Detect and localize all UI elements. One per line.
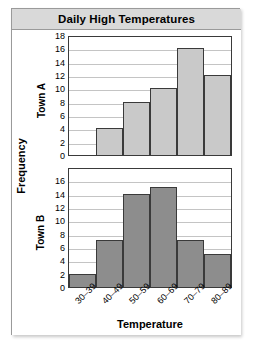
x-tick-60-69: 60–69 — [150, 288, 177, 318]
bar-town-a-50-59 — [123, 102, 150, 155]
x-axis-label: Temperature — [68, 318, 232, 330]
bar-town-b-60-69 — [150, 187, 177, 287]
y-tick-town-b-8: 8 — [60, 230, 65, 239]
panel-label-town-b: Town B — [34, 166, 48, 299]
y-tick-town-b-12: 12 — [55, 204, 65, 213]
bar-slot — [204, 37, 231, 155]
bar-slot — [69, 37, 96, 155]
bar-town-b-40-49 — [96, 240, 123, 287]
bar-slot — [69, 169, 96, 287]
plot-area-town-a — [68, 36, 232, 156]
chart-body: Frequency Town A 181614121086420 Town B … — [12, 30, 241, 335]
bar-town-b-70-79 — [177, 240, 204, 287]
x-tick-80-89: 80–89 — [205, 288, 232, 318]
y-tick-town-a-0: 0 — [60, 152, 65, 161]
bars-town-a — [69, 37, 231, 155]
bar-slot — [204, 169, 231, 287]
panel-label-town-a: Town A — [34, 34, 48, 167]
y-tick-town-b-10: 10 — [55, 217, 65, 226]
x-tick-30-39: 30–39 — [68, 288, 95, 318]
bar-town-b-50-59 — [123, 194, 150, 287]
panel-label-town-b-text: Town B — [36, 215, 47, 250]
page-title: Daily High Temperatures — [58, 13, 195, 25]
bar-town-a-60-69 — [150, 88, 177, 155]
y-axis-ticks-town-b: 1614121086420 — [48, 166, 66, 299]
y-tick-town-b-4: 4 — [60, 257, 65, 266]
plot-area-town-b — [68, 168, 232, 288]
y-tick-town-b-2: 2 — [60, 270, 65, 279]
y-tick-town-a-10: 10 — [55, 85, 65, 94]
y-tick-town-a-4: 4 — [60, 125, 65, 134]
bar-slot — [150, 37, 177, 155]
bar-slot — [96, 169, 123, 287]
y-axis-ticks-town-a: 181614121086420 — [48, 34, 66, 167]
bar-slot — [123, 169, 150, 287]
x-tick-70-79: 70–79 — [177, 288, 204, 318]
bar-town-a-80-89 — [204, 75, 231, 155]
chart-title-bar: Daily High Temperatures — [12, 9, 241, 30]
panel-label-town-a-text: Town A — [36, 83, 47, 118]
bar-slot — [177, 37, 204, 155]
y-tick-town-b-6: 6 — [60, 244, 65, 253]
bar-slot — [96, 37, 123, 155]
bar-slot — [123, 37, 150, 155]
y-tick-town-b-14: 14 — [55, 190, 65, 199]
x-tick-40-49: 40–49 — [95, 288, 122, 318]
bars-town-b — [69, 169, 231, 287]
y-tick-town-a-16: 16 — [55, 45, 65, 54]
y-tick-town-a-6: 6 — [60, 112, 65, 121]
panel-town-a: Town A 181614121086420 — [12, 34, 241, 167]
y-tick-town-b-0: 0 — [60, 284, 65, 293]
y-tick-town-a-12: 12 — [55, 72, 65, 81]
y-tick-town-a-8: 8 — [60, 98, 65, 107]
panel-town-b: Town B 1614121086420 — [12, 166, 241, 299]
bar-slot — [150, 169, 177, 287]
y-tick-town-a-14: 14 — [55, 58, 65, 67]
y-tick-town-a-2: 2 — [60, 138, 65, 147]
bar-slot — [177, 169, 204, 287]
y-tick-town-b-16: 16 — [55, 177, 65, 186]
y-tick-town-a-18: 18 — [55, 32, 65, 41]
bar-town-a-70-79 — [177, 48, 204, 155]
x-axis-ticks: 30–3940–4950–5960–6970–7980–89 — [68, 288, 232, 318]
bar-town-a-40-49 — [96, 128, 123, 155]
x-tick-50-59: 50–59 — [123, 288, 150, 318]
figure-frame: Daily High Temperatures Frequency Town A… — [11, 8, 240, 335]
